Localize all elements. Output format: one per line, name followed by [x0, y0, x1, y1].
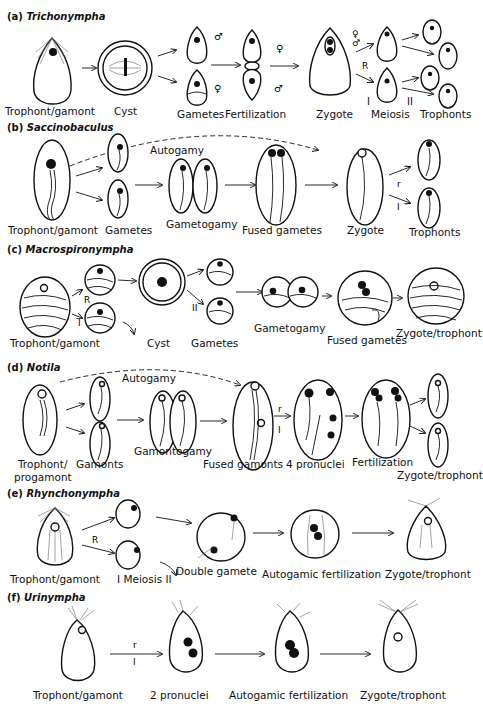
autogamy-label: Autogamy	[122, 372, 176, 384]
stage-label: Gametes	[177, 108, 224, 120]
stage-label: Zygote/trophont	[396, 327, 482, 339]
panel-a-drawings: ♂ ♀ ♀ ♂ ♀ ♂ R	[34, 20, 457, 108]
panel-e-title: (e) Rhynchonympha	[7, 488, 120, 499]
svg-text:r: r	[133, 640, 137, 650]
panel-d-title: (d) Notila	[7, 362, 60, 373]
annotation-II: II	[407, 96, 413, 107]
panel-letter: (c)	[7, 244, 22, 255]
stage-label: Zygote/trophont	[360, 689, 446, 701]
stage-label: Gametes	[191, 337, 238, 349]
panel-letter: (e)	[7, 488, 23, 499]
stage-label: Fused gamonts	[203, 458, 283, 470]
stage-label: Cyst	[114, 105, 137, 117]
stage-label: Zygote	[347, 224, 384, 236]
stage-label: Trophont/	[18, 458, 67, 470]
stage-label: Gametes	[105, 224, 152, 236]
stage-label: Gamontogamy	[134, 445, 212, 457]
stage-label: Trophonts	[420, 108, 471, 120]
panel-c-drawings: R I II	[20, 259, 464, 337]
svg-text:II: II	[192, 303, 197, 313]
organism-name: Rhynchonympha	[26, 488, 119, 499]
organism-name: Saccinobaculus	[27, 122, 114, 133]
organism-name: Notila	[27, 362, 61, 373]
svg-text:I: I	[397, 202, 400, 212]
stage-label: Trophonts	[409, 226, 460, 238]
svg-text:♂: ♂	[274, 83, 283, 94]
panel-a-title: (a) Trichonympha	[7, 11, 105, 22]
panel-b-title: (b) Saccinobaculus	[7, 122, 113, 133]
svg-text:r: r	[397, 179, 401, 189]
stage-label: Gametogamy	[254, 322, 325, 334]
stage-label: Trophont/gamont	[10, 573, 100, 585]
svg-text:R: R	[362, 61, 368, 71]
organism-name: Macrospironympha	[26, 244, 134, 255]
svg-text:♀: ♀	[214, 83, 221, 94]
svg-text:I: I	[78, 318, 81, 328]
panel-d-drawings: r I	[23, 370, 448, 470]
stage-label: 2 pronuclei	[150, 689, 209, 701]
svg-text:♀: ♀	[276, 43, 283, 54]
stage-label: progamont	[14, 471, 72, 483]
panel-b-drawings: r I	[34, 134, 440, 228]
svg-text:R: R	[92, 535, 98, 545]
stage-label: Meiosis	[371, 108, 410, 120]
panel-c-title: (c) Macrospironympha	[7, 244, 133, 255]
stage-label: Double gamete	[176, 565, 257, 577]
stage-label: Autogamic fertilization	[262, 568, 381, 580]
panel-f-title: (f) Urinympha	[7, 592, 86, 603]
stage-label: Trophont/gamont	[10, 337, 100, 349]
svg-text:I: I	[278, 425, 281, 435]
autogamy-label: Autogamy	[150, 144, 204, 156]
stage-label: Fused gametes	[327, 334, 407, 346]
panel-letter: (b)	[7, 122, 23, 133]
annotation-I: I	[367, 96, 370, 107]
stage-label: Fused gametes	[242, 224, 322, 236]
stage-label: Zygote/trophont	[385, 568, 471, 580]
panel-letter: (a)	[7, 11, 23, 22]
stage-label: Fertilization	[352, 456, 413, 468]
stage-label: Cyst	[147, 337, 170, 349]
panel-letter: (f)	[7, 592, 21, 603]
stage-label: 4 pronuclei	[286, 458, 345, 470]
stage-label: Trophont/gamont	[5, 105, 95, 117]
stage-label: Trophont/gamont	[8, 224, 98, 236]
stage-label: Gametogamy	[166, 218, 237, 230]
svg-text:R: R	[84, 295, 90, 305]
panel-letter: (d)	[7, 362, 23, 373]
stage-label: I Meiosis II	[117, 573, 172, 585]
svg-text:♂: ♂	[214, 31, 223, 42]
panel-f-drawings: r I	[62, 600, 418, 681]
svg-text:r: r	[278, 404, 282, 414]
stage-label: Zygote/trophont	[397, 469, 483, 481]
organism-name: Urinympha	[24, 592, 86, 603]
svg-text:♂: ♂	[352, 38, 360, 48]
stage-label: Autogamic fertilization	[229, 689, 348, 701]
stage-label: Trophont/gamont	[33, 689, 123, 701]
svg-text:I: I	[133, 657, 136, 667]
panel-e-drawings: R	[37, 498, 445, 575]
stage-label: Zygote	[316, 108, 353, 120]
stage-label: Fertilization	[225, 108, 286, 120]
stage-label: Gamonts	[76, 458, 123, 470]
organism-name: Trichonympha	[26, 11, 105, 22]
